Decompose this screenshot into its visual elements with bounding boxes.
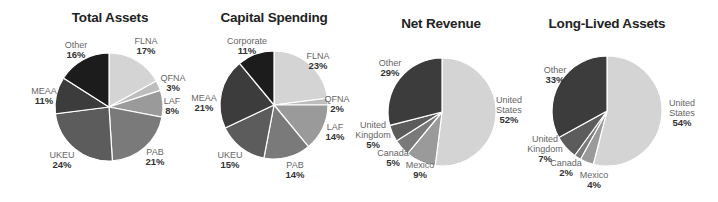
slice-percent: 16%: [65, 50, 88, 60]
slice-percent: 7%: [527, 154, 563, 164]
slice-percent: 14%: [285, 170, 304, 180]
slice-label-pab: PAB21%: [145, 147, 164, 167]
slice-percent: 29%: [379, 68, 402, 78]
slice-label-united-states: UnitedStates54%: [669, 98, 695, 128]
slice-percent: 2%: [324, 104, 349, 114]
slice-label-other: Other33%: [544, 65, 567, 85]
slice-name: United: [669, 98, 695, 108]
slice-label-other: Other29%: [379, 58, 402, 78]
slice-label-meaa: MEAA11%: [31, 86, 57, 106]
slice-name: United: [355, 120, 391, 130]
slice-name: United: [496, 95, 522, 105]
slice-label-pab: PAB14%: [285, 160, 304, 180]
slice-label-laf: LAF14%: [325, 122, 344, 142]
slice-label-qfna: QFNA3%: [160, 73, 185, 93]
pie-total-assets: [55, 53, 163, 161]
slice-percent: 15%: [217, 160, 242, 170]
slice-percent: 5%: [377, 158, 409, 168]
slice-percent: 4%: [580, 180, 609, 190]
pie-slice-united-states: [435, 58, 496, 166]
slice-percent: 24%: [49, 160, 74, 170]
slice-percent: 8%: [164, 106, 181, 116]
pie-long-lived-assets: [552, 56, 662, 166]
slice-name: United: [527, 134, 563, 144]
slice-percent: 52%: [496, 115, 522, 125]
slice-label-canada: Canada5%: [377, 148, 409, 168]
slice-percent: 3%: [160, 83, 185, 93]
slice-percent: 54%: [669, 118, 695, 128]
slice-label-ukeu: UKEU24%: [49, 150, 74, 170]
slice-label-corporate: Corporate11%: [227, 36, 267, 56]
slice-label-united-states: UnitedStates52%: [496, 95, 522, 125]
slice-percent: 11%: [31, 96, 57, 106]
slice-label-united-kingdom: UnitedKingdom7%: [527, 134, 563, 164]
slice-percent: 14%: [325, 132, 344, 142]
slice-label-flna: FLNA23%: [306, 51, 329, 71]
pie-charts-canvas: [0, 0, 718, 202]
slice-percent: 5%: [355, 140, 391, 150]
slice-percent: 33%: [544, 75, 567, 85]
slice-label-qfna: QFNA2%: [324, 94, 349, 114]
slice-percent: 2%: [550, 168, 582, 178]
slice-label-other: Other16%: [65, 40, 88, 60]
slice-percent: 17%: [134, 46, 157, 56]
slice-label-mexico: Mexico4%: [580, 170, 609, 190]
slice-percent: 21%: [145, 157, 164, 167]
slice-percent: 23%: [306, 61, 329, 71]
slice-label-united-kingdom: UnitedKingdom5%: [355, 120, 391, 150]
slice-percent: 21%: [191, 103, 217, 113]
slice-label-flna: FLNA17%: [134, 36, 157, 56]
slice-label-laf: LAF8%: [164, 96, 181, 116]
slice-percent: 9%: [406, 170, 435, 180]
slice-label-mexico: Mexico9%: [406, 160, 435, 180]
slice-label-ukeu: UKEU15%: [217, 150, 242, 170]
slice-percent: 11%: [227, 46, 267, 56]
slice-label-meaa: MEAA21%: [191, 93, 217, 113]
